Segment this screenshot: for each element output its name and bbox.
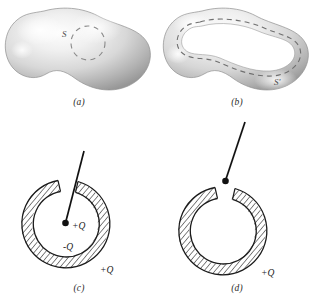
panel-c-caption: (c) [0, 283, 158, 293]
panel-b-caption: (b) [158, 97, 316, 107]
charge-label-inner-surface: -Q [63, 242, 73, 252]
surface-label-s-prime: S' [274, 77, 282, 87]
charge-label-outer-surface: +Q [100, 265, 113, 275]
surface-label-s: S [62, 29, 67, 39]
hollow-conductor-blob [163, 8, 308, 92]
panel-a: S (a) [0, 0, 158, 116]
charge-label-center: +Q [72, 221, 85, 231]
point-charge-dot [222, 178, 229, 185]
panel-b: S' (b) [158, 0, 316, 116]
panel-c-drawing: +Q -Q +Q [0, 116, 158, 304]
conductor-blob [5, 8, 150, 90]
panel-a-caption: (a) [0, 97, 158, 107]
panel-c: +Q -Q +Q (c) [0, 116, 158, 304]
panel-d: +Q (d) [158, 116, 316, 304]
physics-figure: S (a) [0, 0, 316, 304]
panel-d-caption: (d) [158, 283, 316, 293]
panel-d-drawing: +Q [158, 116, 316, 304]
conducting-shell [178, 187, 267, 275]
charge-rod [226, 122, 245, 179]
point-charge-dot [62, 220, 69, 227]
charge-label-outer-surface: +Q [261, 268, 274, 278]
